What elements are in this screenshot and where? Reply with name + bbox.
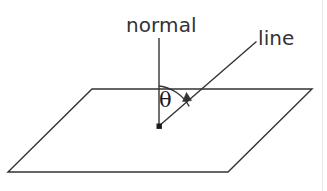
diagram-screenshot: normal line θ: [0, 0, 327, 191]
theta-label: θ: [159, 90, 172, 111]
line-label: line: [258, 28, 295, 48]
oblique-line: [159, 42, 257, 127]
normal-label: normal: [126, 15, 197, 35]
right-edge-rule: [322, 0, 323, 191]
angle-arc-arrowhead: [183, 93, 192, 102]
vertex-point-marker: [157, 124, 162, 129]
